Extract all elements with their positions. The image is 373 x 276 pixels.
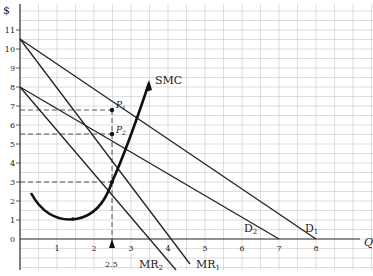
p2-point (110, 132, 114, 136)
x-tick-label: 7 (276, 244, 281, 253)
y-tick-label: 8 (10, 83, 15, 92)
x-tick-label: 6 (239, 244, 244, 253)
y-tick-label: 7 (10, 102, 15, 111)
p1-point (110, 108, 114, 112)
y-tick-label: 11 (5, 26, 15, 35)
smc-arrowhead (145, 80, 152, 92)
q-marker-arrow-icon (109, 239, 115, 248)
p1-label: P1 (115, 100, 126, 111)
smc-min-point (71, 217, 75, 221)
intersection-point (110, 180, 114, 184)
y-tick-label: 9 (10, 64, 15, 73)
y-tick-label: 5 (10, 140, 15, 149)
mr2-line (20, 87, 176, 270)
q-marker-label: 2.5 (105, 260, 118, 269)
y-tick-label: 0 (10, 235, 15, 244)
x-tick-label: 1 (54, 244, 59, 253)
y-tick-label: 4 (10, 159, 15, 168)
x-tick-label: 2 (91, 244, 96, 253)
smc-label: SMC (155, 74, 182, 87)
x-tick-label: 8 (313, 244, 318, 253)
y-tick-label: 10 (5, 45, 15, 54)
grid (20, 4, 373, 270)
y-tick-labels: 01234567891011 (5, 26, 20, 244)
y-tick-label: 2 (10, 197, 15, 206)
x-axis-label: Q (364, 236, 373, 249)
x-tick-label: 4 (165, 244, 170, 253)
y-tick-label: 1 (10, 216, 15, 225)
x-tick-label: 3 (128, 244, 133, 253)
mr1-label: MR1 (196, 258, 220, 272)
p2-label: P2 (115, 125, 126, 136)
mr2-label: MR2 (139, 258, 163, 272)
y-axis-label: $ (3, 4, 10, 17)
economics-chart: 01234567891011 12345678 $ Q SMC P1 P2 D1… (0, 0, 373, 276)
d1-label: D1 (305, 222, 318, 236)
mr1-line (20, 39, 190, 264)
y-tick-label: 3 (10, 178, 15, 187)
y-tick-label: 6 (10, 121, 15, 130)
d2-label: D2 (244, 222, 257, 236)
x-tick-label: 5 (202, 244, 207, 253)
